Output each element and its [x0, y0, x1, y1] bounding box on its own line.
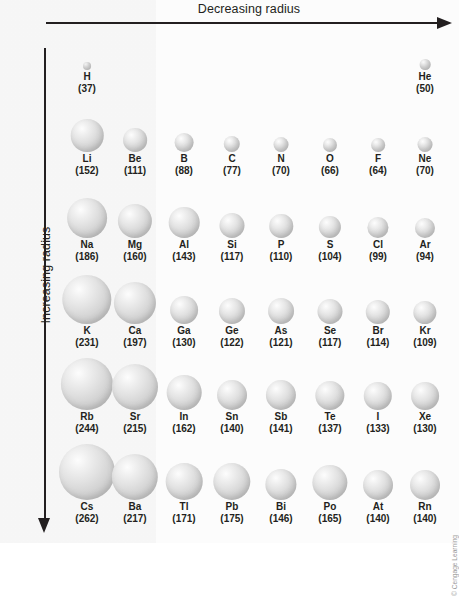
atom-sphere-pb: [213, 463, 250, 500]
element-labels: Xe(130): [393, 411, 457, 434]
sphere-area: [393, 10, 457, 70]
element-labels: H(37): [55, 71, 119, 94]
atom-sphere-he: [420, 59, 431, 70]
element-radius-value: (94): [393, 251, 457, 263]
element-cell-ar: Ar(94): [393, 178, 457, 262]
atom-sphere-li: [71, 119, 104, 152]
atom-sphere-te: [315, 381, 344, 410]
element-cell-he: He(50): [393, 10, 457, 94]
atom-sphere-ge: [219, 298, 245, 324]
sphere-area: [393, 178, 457, 238]
element-radius-value: (140): [393, 513, 457, 525]
atom-sphere-s: [319, 216, 341, 238]
atom-sphere-n: [274, 137, 289, 152]
element-cell-h: H(37): [55, 10, 119, 94]
element-radius-value: (109): [393, 337, 457, 349]
atom-sphere-h: [83, 62, 91, 70]
sphere-area: [393, 92, 457, 152]
element-cell-rn: Rn(140): [393, 440, 457, 524]
atom-sphere-ca: [114, 282, 156, 324]
atom-sphere-at: [363, 470, 393, 500]
element-symbol: He: [393, 71, 457, 83]
atom-sphere-mg: [118, 204, 152, 238]
atom-sphere-i: [364, 382, 392, 410]
atom-sphere-br: [366, 300, 390, 324]
atom-sphere-f: [371, 138, 385, 152]
copyright-notice: © Cengage Learning: [451, 535, 458, 596]
atom-sphere-b: [175, 133, 194, 152]
atom-sphere-p: [269, 214, 293, 238]
atom-sphere-se: [317, 299, 342, 324]
element-radius-value: (70): [393, 165, 457, 177]
arrow-down-icon: [38, 518, 50, 533]
element-symbol: Rn: [393, 501, 457, 513]
atom-sphere-xe: [411, 382, 439, 410]
sphere-area: [393, 264, 457, 324]
atom-sphere-cl: [367, 217, 388, 238]
element-symbol: Ne: [393, 153, 457, 165]
atom-sphere-as: [268, 298, 294, 324]
atom-sphere-rn: [410, 470, 440, 500]
element-labels: Rn(140): [393, 501, 457, 524]
element-symbol: Xe: [393, 411, 457, 423]
atom-sphere-po: [312, 465, 347, 500]
element-labels: Ar(94): [393, 239, 457, 262]
element-labels: Ne(70): [393, 153, 457, 176]
element-labels: He(50): [393, 71, 457, 94]
element-symbol: Ar: [393, 239, 457, 251]
atom-sphere-o: [323, 138, 337, 152]
atom-sphere-sb: [266, 380, 296, 410]
atom-sphere-tl: [166, 463, 203, 500]
element-labels: Kr(109): [393, 325, 457, 348]
atom-sphere-kr: [413, 301, 436, 324]
atom-sphere-na: [67, 198, 107, 238]
element-cell-xe: Xe(130): [393, 350, 457, 434]
atom-sphere-c: [224, 136, 240, 152]
atom-sphere-in: [167, 375, 202, 410]
sphere-area: [55, 10, 119, 70]
atom-sphere-sn: [217, 380, 247, 410]
element-symbol: Kr: [393, 325, 457, 337]
atom-sphere-si: [219, 213, 244, 238]
atom-sphere-be: [123, 128, 147, 152]
atom-sphere-bi: [265, 469, 296, 500]
atom-sphere-ga: [170, 296, 198, 324]
atom-sphere-al: [169, 207, 200, 238]
left-axis-label: Increasing radius: [39, 160, 53, 390]
increasing-radius-arrow: Increasing radius: [44, 48, 46, 533]
sphere-area: [393, 440, 457, 500]
element-symbol: H: [55, 71, 119, 83]
element-cell-kr: Kr(109): [393, 264, 457, 348]
sphere-area: [393, 350, 457, 410]
element-radius-value: (130): [393, 423, 457, 435]
element-cell-ne: Ne(70): [393, 92, 457, 176]
atom-sphere-ar: [415, 218, 435, 238]
atom-sphere-ne: [418, 137, 433, 152]
